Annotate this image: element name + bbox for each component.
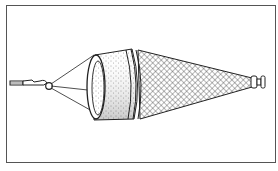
mesh-cone [138, 50, 252, 119]
cod-end-icon [251, 76, 265, 88]
swivel-icon [23, 80, 52, 89]
plankton-net-illustration [0, 0, 278, 171]
mouth-ring [87, 55, 105, 119]
towline [10, 81, 23, 85]
